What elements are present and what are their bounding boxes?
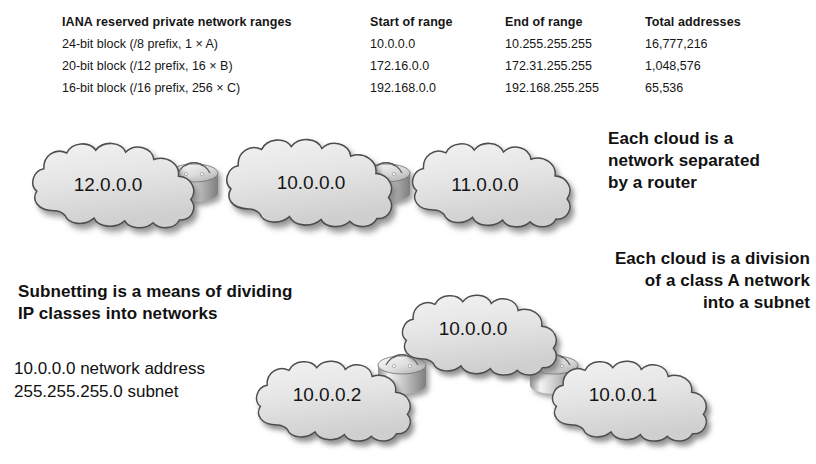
- table-row: 20-bit block (/12 prefix, 16 × B) 172.16…: [0, 56, 816, 77]
- bottom-subnet-row: 10.0.0.0 10.0.0.2 10.0.0.1: [257, 295, 707, 441]
- cloud-node: [227, 140, 392, 227]
- table-header-total: Total addresses: [645, 12, 741, 33]
- cell-block: 16-bit block (/16 prefix, 256 × C): [62, 78, 240, 99]
- router-icon: [378, 355, 426, 394]
- callout-router-note: Each cloud is a network separated by a r…: [608, 128, 760, 194]
- callout-subnetting-note: Subnetting is a means of dividing IP cla…: [18, 281, 292, 325]
- cell-end: 10.255.255.255: [505, 34, 592, 55]
- top-network-row: 12.0.0.0 10.0.0.0 11.0.0.0: [33, 140, 570, 228]
- cloud-label: 10.0.0.2: [293, 384, 362, 405]
- cell-start: 192.168.0.0: [370, 78, 436, 99]
- table-row: 24-bit block (/8 prefix, 1 × A) 10.0.0.0…: [0, 34, 816, 55]
- cell-start: 172.16.0.0: [370, 56, 429, 77]
- router-icon: [170, 163, 218, 202]
- diagram-page: IANA reserved private network ranges Sta…: [0, 0, 816, 464]
- table-header-end: End of range: [505, 12, 583, 33]
- cloud-node: [403, 295, 557, 375]
- cloud-label: 10.0.0.1: [589, 384, 658, 405]
- table-row: 16-bit block (/16 prefix, 256 × C) 192.1…: [0, 78, 816, 99]
- cell-total: 65,536: [645, 78, 683, 99]
- table-header-block: IANA reserved private network ranges: [62, 12, 292, 33]
- router-icon: [530, 355, 578, 394]
- table-header-start: Start of range: [370, 12, 453, 33]
- callout-subnet-note: Each cloud is a division of a class A ne…: [550, 248, 810, 314]
- cell-start: 10.0.0.0: [370, 34, 415, 55]
- cloud-node: [413, 143, 570, 226]
- cloud-label: 10.0.0.0: [439, 318, 508, 339]
- cell-total: 1,048,576: [645, 56, 701, 77]
- router-icon: [362, 163, 410, 202]
- cell-end: 172.31.255.255: [505, 56, 592, 77]
- cloud-label: 11.0.0.0: [451, 174, 518, 195]
- cell-end: 192.168.255.255: [505, 78, 599, 99]
- cloud-node: [257, 361, 411, 441]
- cell-block: 24-bit block (/8 prefix, 1 × A): [62, 34, 218, 55]
- callout-address-note: 10.0.0.0 network address 255.255.255.0 s…: [14, 357, 205, 403]
- cloud-node: [33, 143, 194, 227]
- cloud-node: [553, 361, 707, 441]
- table-header-row: IANA reserved private network ranges Sta…: [0, 12, 816, 33]
- cloud-label: 10.0.0.0: [277, 172, 346, 193]
- cloud-label: 12.0.0.0: [74, 174, 143, 195]
- cell-total: 16,777,216: [645, 34, 708, 55]
- cell-block: 20-bit block (/12 prefix, 16 × B): [62, 56, 233, 77]
